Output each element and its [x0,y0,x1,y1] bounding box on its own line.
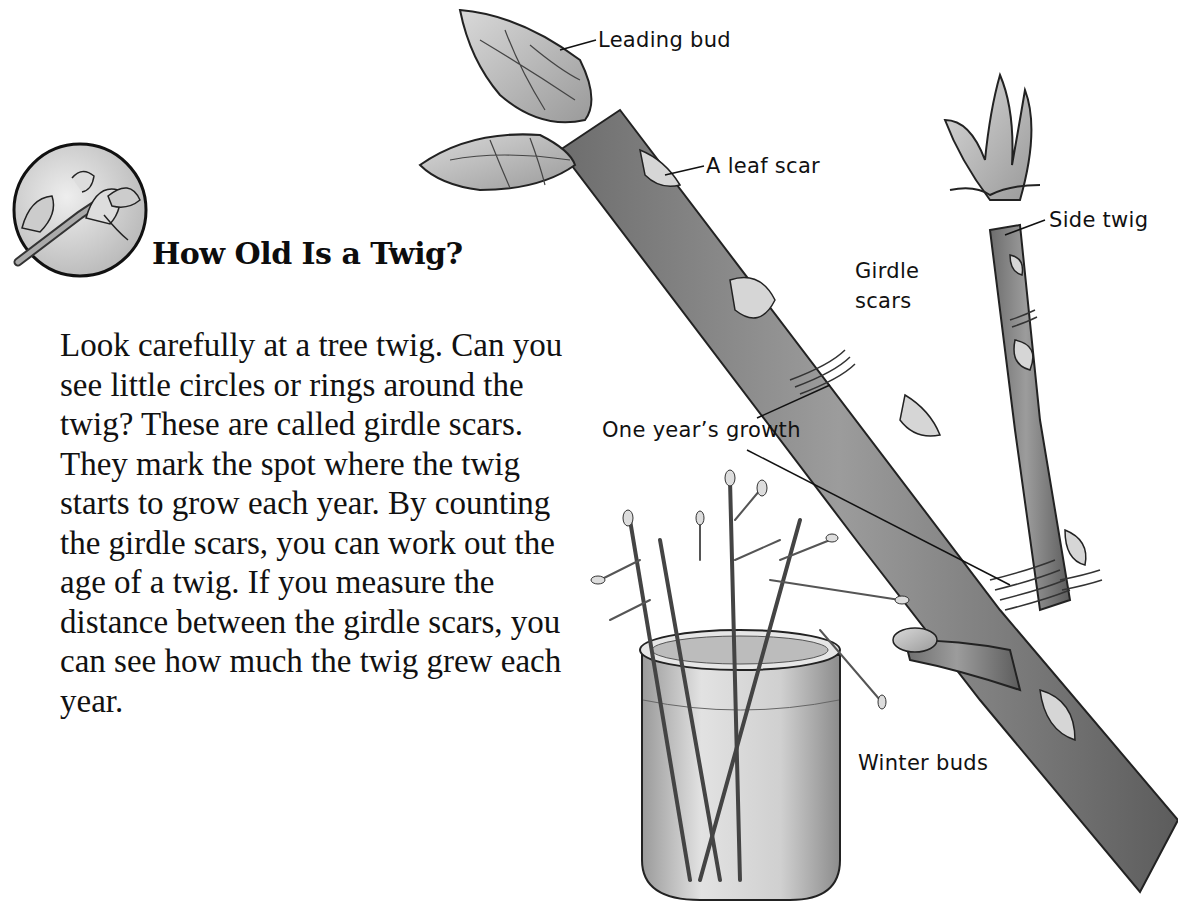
label-one-years-growth: One year’s growth [602,418,801,442]
document-page: How Old Is a Twig? Look carefully at a t… [0,0,1178,902]
body-paragraph: Look carefully at a tree twig. Can you s… [60,326,580,721]
label-winter-buds: Winter buds [858,751,988,775]
twig-bud-circle-icon [14,144,146,276]
label-side-twig: Side twig [1049,208,1148,232]
label-girdle-scars: Girdle scars [855,256,945,316]
label-leaf-scar: A leaf scar [706,154,820,178]
page-title: How Old Is a Twig? [152,236,463,271]
label-leading-bud: Leading bud [598,28,731,52]
